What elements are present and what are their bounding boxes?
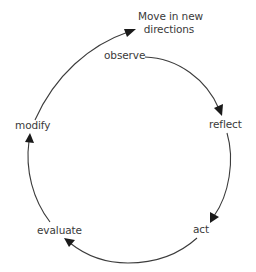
- arrow-reflect-to-act: [214, 133, 231, 216]
- node-new-directions-line2: directions: [138, 23, 200, 36]
- arrow-evaluate-to-modify: [28, 141, 50, 222]
- arrowhead-icon: [25, 133, 34, 143]
- node-modify: modify: [15, 119, 50, 132]
- node-observe: observe: [104, 49, 145, 62]
- arrow-modify-to-new-directions: [35, 32, 128, 120]
- arrowhead-icon: [210, 212, 219, 223]
- arrowhead-icon: [214, 104, 223, 116]
- node-new-directions-line1: Move in new: [138, 10, 200, 23]
- node-new-directions: Move in new directions: [138, 10, 200, 36]
- node-reflect: reflect: [209, 118, 242, 131]
- node-evaluate: evaluate: [37, 224, 82, 237]
- cycle-diagram: Move in new directions observe reflect a…: [0, 0, 256, 272]
- node-act: act: [193, 223, 209, 236]
- arrow-act-to-evaluate: [70, 238, 197, 263]
- arrowhead-icon: [124, 29, 136, 37]
- arrow-observe-to-reflect: [145, 57, 219, 109]
